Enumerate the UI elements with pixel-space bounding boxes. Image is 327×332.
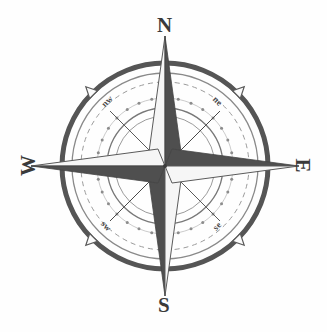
ring-bead <box>107 202 110 205</box>
ring-bead <box>101 191 104 194</box>
ring-bead <box>190 102 193 105</box>
ring-bead <box>97 178 100 181</box>
ring-bead <box>220 202 223 205</box>
ray-south <box>148 166 182 296</box>
compass-rose-figure: N E S W nw ne sw se <box>0 0 327 332</box>
ring-bead <box>137 227 140 230</box>
ring-bead <box>97 151 100 154</box>
ring-bead <box>107 127 110 130</box>
ring-bead <box>230 151 233 154</box>
label-north: N <box>157 15 172 36</box>
ring-bead <box>177 231 180 234</box>
ring-bead <box>220 127 223 130</box>
ring-bead <box>190 227 193 230</box>
ring-bead <box>230 178 233 181</box>
ring-bead <box>137 102 140 105</box>
label-west: W <box>18 155 39 176</box>
label-south: S <box>158 295 170 316</box>
ring-bead <box>201 221 204 224</box>
compass-center-point <box>163 164 167 168</box>
ring-bead <box>126 108 129 111</box>
ring-bead <box>177 98 180 101</box>
ring-bead <box>150 98 153 101</box>
ring-bead <box>150 231 153 234</box>
ring-bead <box>226 138 229 141</box>
ring-bead <box>226 191 229 194</box>
compass-rose-graphic <box>0 0 327 332</box>
ring-bead <box>201 108 204 111</box>
ring-bead <box>126 221 129 224</box>
ray-north <box>148 36 182 166</box>
label-east: E <box>292 158 313 172</box>
ring-bead <box>101 138 104 141</box>
